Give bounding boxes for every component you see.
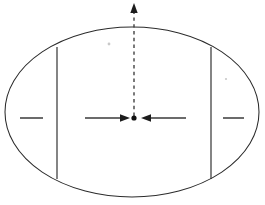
ellipse-force-diagram bbox=[0, 0, 265, 205]
center-dot bbox=[131, 115, 136, 120]
vertical-dashed-axis-head bbox=[130, 3, 137, 13]
left-inward-arrow-head bbox=[120, 114, 130, 122]
right-inward-arrow-head bbox=[141, 114, 151, 122]
outer-ellipse bbox=[5, 27, 259, 197]
speck-upper-left bbox=[108, 43, 111, 46]
diagram-canvas bbox=[0, 0, 265, 205]
speck-mid-right bbox=[225, 78, 227, 80]
